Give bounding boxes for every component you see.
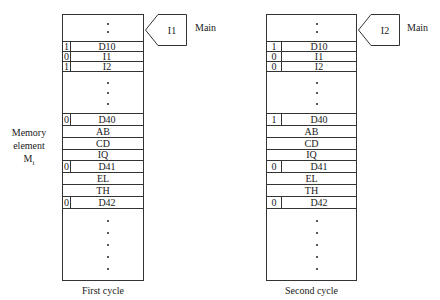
first-cycle-panel: 1D100I11I20D40ABCDIQ0D41ELTH0D42I1MainFi… <box>62 0 202 300</box>
memory-row: 0D41 <box>63 160 143 172</box>
ellipsis-dot <box>107 103 109 105</box>
pointer-tag: I1 <box>145 14 187 46</box>
memory-row: 1I2 <box>63 61 143 71</box>
memory-row: EL <box>63 172 143 184</box>
instruction-label: D10 <box>282 42 356 51</box>
flag-bit: 0 <box>63 114 71 125</box>
flag-bit: 1 <box>267 114 282 125</box>
ellipsis-dot <box>107 256 109 258</box>
top-ellipsis-cell <box>63 15 143 41</box>
memory-row: 0I1 <box>267 51 356 61</box>
ellipsis-dot <box>107 232 109 234</box>
memory-row: IQ <box>63 149 143 160</box>
memory-row: CD <box>267 137 356 149</box>
side-label-line3: Mi <box>0 152 58 170</box>
flag-bit: 0 <box>267 161 282 172</box>
ellipsis-dot <box>316 268 318 270</box>
instruction-label: I2 <box>282 62 356 71</box>
instruction-label: IQ <box>267 150 356 160</box>
ellipsis-dot <box>107 244 109 246</box>
instruction-label: D41 <box>282 161 356 172</box>
flag-bit: 0 <box>63 197 71 208</box>
middle-ellipsis-cell <box>63 71 143 113</box>
memory-row: TH <box>267 184 356 196</box>
instruction-label: D10 <box>71 42 143 51</box>
instruction-label: D41 <box>71 161 143 172</box>
instruction-label: IQ <box>63 150 143 160</box>
memory-row: 0D41 <box>267 160 356 172</box>
instruction-label: I2 <box>71 62 143 71</box>
memory-row: 0D40 <box>63 113 143 125</box>
pointer-tag: I2 <box>358 14 400 46</box>
flag-bit: 1 <box>267 42 282 51</box>
memory-row: EL <box>267 172 356 184</box>
pointer-value: I1 <box>157 14 187 46</box>
ellipsis-dot <box>316 232 318 234</box>
main-label: Main <box>407 22 428 33</box>
instruction-label: TH <box>267 185 356 196</box>
memory-row: CD <box>63 137 143 149</box>
instruction-label: TH <box>63 185 143 196</box>
side-label-subscript: i <box>32 159 34 167</box>
side-label-line2: element <box>0 139 58 152</box>
flag-bit: 0 <box>267 197 282 208</box>
memory-row: 0I1 <box>63 51 143 61</box>
ellipsis-dot <box>107 92 109 94</box>
flag-bit: 0 <box>63 161 71 172</box>
flag-bit: 1 <box>63 62 71 71</box>
ellipsis-dot <box>107 23 109 25</box>
ellipsis-dot <box>107 82 109 84</box>
memory-row: 0I2 <box>267 61 356 71</box>
memory-element-label: Memory element Mi <box>0 126 58 170</box>
memory-row: 1D10 <box>267 41 356 51</box>
ellipsis-dot <box>316 23 318 25</box>
instruction-label: EL <box>63 173 143 184</box>
memory-row: TH <box>63 184 143 196</box>
memory-column: 1D100I10I21D40ABCDIQ0D41ELTH0D42 <box>266 14 357 281</box>
side-label-line1: Memory <box>0 126 58 139</box>
ellipsis-dot <box>107 268 109 270</box>
memory-column: 1D100I11I20D40ABCDIQ0D41ELTH0D42 <box>62 14 144 281</box>
bottom-ellipsis-cell <box>267 208 356 280</box>
ellipsis-dot <box>316 92 318 94</box>
memory-row: 0D42 <box>267 196 356 208</box>
instruction-label: CD <box>63 138 143 149</box>
instruction-label: AB <box>63 126 143 137</box>
instruction-label: AB <box>267 126 356 137</box>
middle-ellipsis-cell <box>267 71 356 113</box>
flag-bit: 1 <box>63 42 71 51</box>
pointer-value: I2 <box>370 14 400 46</box>
memory-row: IQ <box>267 149 356 160</box>
flag-bit: 0 <box>267 52 282 61</box>
ellipsis-dot <box>107 31 109 33</box>
second-cycle-panel: 1D100I10I21D40ABCDIQ0D41ELTH0D42I2MainSe… <box>266 0 406 300</box>
memory-row: AB <box>267 125 356 137</box>
memory-row: 1D40 <box>267 113 356 125</box>
ellipsis-dot <box>316 82 318 84</box>
top-ellipsis-cell <box>267 15 356 41</box>
memory-row: 1D10 <box>63 41 143 51</box>
instruction-label: I1 <box>282 52 356 61</box>
instruction-label: D40 <box>282 114 356 125</box>
ellipsis-dot <box>316 220 318 222</box>
cycle-caption: Second cycle <box>266 285 357 296</box>
instruction-label: I1 <box>71 52 143 61</box>
ellipsis-dot <box>316 31 318 33</box>
instruction-label: EL <box>267 173 356 184</box>
bottom-ellipsis-cell <box>63 208 143 280</box>
ellipsis-dot <box>107 220 109 222</box>
ellipsis-dot <box>316 244 318 246</box>
memory-row: 0D42 <box>63 196 143 208</box>
ellipsis-dot <box>316 256 318 258</box>
instruction-label: D40 <box>71 114 143 125</box>
memory-row: AB <box>63 125 143 137</box>
instruction-label: D42 <box>71 197 143 208</box>
ellipsis-dot <box>316 103 318 105</box>
flag-bit: 0 <box>63 52 71 61</box>
instruction-label: D42 <box>282 197 356 208</box>
cycle-caption: First cycle <box>62 285 144 296</box>
instruction-label: CD <box>267 138 356 149</box>
main-label: Main <box>195 22 216 33</box>
flag-bit: 0 <box>267 62 282 71</box>
